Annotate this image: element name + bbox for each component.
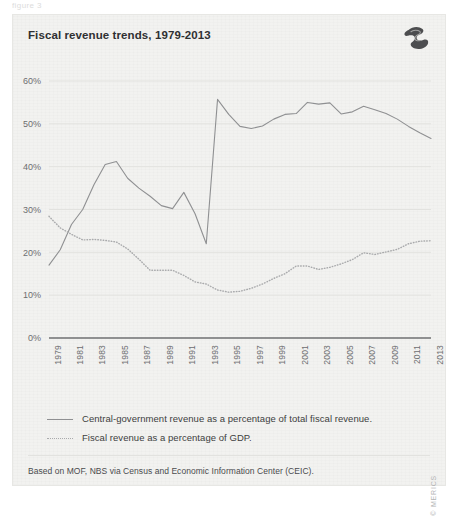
figure-card: Fiscal revenue trends, 1979-2013 0%10%20… [12,14,446,486]
y-axis-tick-label: 0% [28,333,41,343]
x-axis-tick-label: 1979 [53,345,63,365]
x-axis-tick-label: 2013 [435,345,445,365]
legend-swatch-dotted-icon [47,433,73,443]
series-line-fiscal-revenue-gdp [49,216,431,292]
y-axis-tick-label: 40% [23,162,41,172]
x-axis-tick-label: 1981 [75,345,85,365]
legend-item: Central-government revenue as a percenta… [47,409,427,428]
x-axis-tick-label: 1983 [97,345,107,365]
x-axis-tick-label: 2005 [345,345,355,365]
x-axis-tick-label: 2007 [367,345,377,365]
copyright-watermark: © MERICS [431,475,438,516]
legend-swatch-solid-icon [47,414,73,424]
legend-item-label: Central-government revenue as a percenta… [82,413,372,424]
x-axis-tick-label: 1995 [232,345,242,365]
x-axis-tick-label: 1999 [277,345,287,365]
grid-lines [49,81,431,295]
legend-item: Fiscal revenue as a percentage of GDP. [47,428,427,447]
source-divider [28,455,430,456]
chart-svg: 0%10%20%30%40%50%60% [13,59,447,355]
x-axis-tick-label: 2011 [412,345,422,364]
y-axis-tick-label: 20% [23,248,41,258]
y-axis-tick-label: 10% [23,290,41,300]
chart-legend: Central-government revenue as a percenta… [47,409,427,447]
x-axis-tick-label: 2001 [300,345,310,365]
x-axis-tick-labels: 1979198119831985198719891991199319951997… [13,345,447,391]
x-axis-tick-label: 1993 [210,345,220,365]
x-axis-tick-label: 1989 [165,345,175,365]
y-axis-tick-label: 30% [23,205,41,215]
source-note: Based on MOF, NBS via Census and Economi… [28,466,314,476]
x-axis-tick-label: 1985 [120,345,130,365]
chart-title: Fiscal revenue trends, 1979-2013 [28,29,211,41]
merics-logo-icon [400,23,434,53]
plot-area: 0%10%20%30%40%50%60% [13,59,447,355]
x-axis-tick-label: 1987 [142,345,152,365]
x-axis-tick-label: 2009 [390,345,400,365]
y-axis-tick-labels: 0%10%20%30%40%50%60% [23,76,41,343]
x-axis-tick-label: 1991 [187,345,197,365]
x-axis-tick-label: 1997 [255,345,265,365]
page-top-text-fragment: figure 3 [12,0,132,12]
y-axis-tick-label: 60% [23,76,41,86]
x-axis-tick-label: 2003 [322,345,332,365]
legend-item-label: Fiscal revenue as a percentage of GDP. [82,432,252,443]
y-axis-tick-label: 50% [23,119,41,129]
